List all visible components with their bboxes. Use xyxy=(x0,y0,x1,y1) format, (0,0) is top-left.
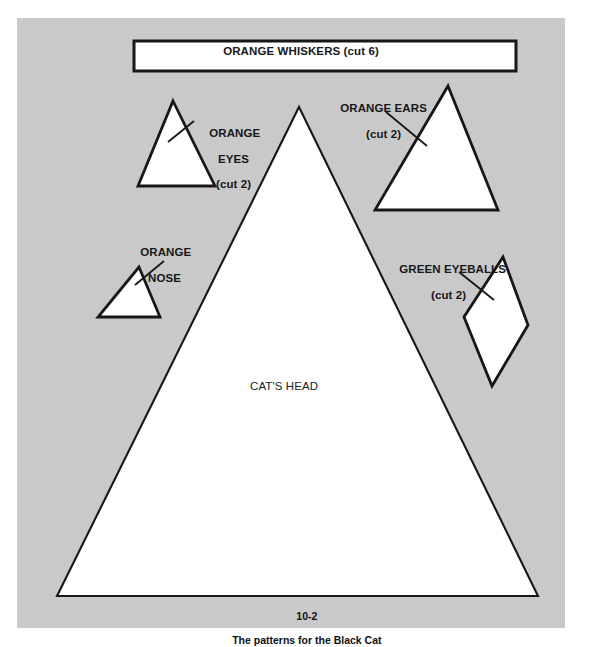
label-cats-head: CAT'S HEAD xyxy=(250,380,318,393)
figure-caption: 10-2 The patterns for the Black Cat xyxy=(0,598,602,647)
label-green-eyeballs-line1: GREEN EYEBALLS xyxy=(399,263,506,275)
label-green-eyeballs-cut: (cut 2) xyxy=(431,289,466,301)
label-orange-ears: ORANGE EARS (cut 2) xyxy=(325,89,429,153)
label-green-eyeballs: GREEN EYEBALLS (cut 2) xyxy=(386,250,498,314)
label-orange-eyes-line2: EYES xyxy=(218,153,249,165)
label-orange-nose: ORANGE NOSE xyxy=(127,233,189,297)
label-orange-eyes-line1: ORANGE xyxy=(209,127,260,139)
label-orange-nose-line1: ORANGE xyxy=(140,246,191,258)
label-orange-eyes-cut: (cut 2) xyxy=(216,178,251,190)
label-orange-whiskers: ORANGE WHISKERS (cut 6) xyxy=(0,45,602,58)
label-orange-nose-line2: NOSE xyxy=(148,272,181,284)
label-orange-ears-line1: ORANGE EARS xyxy=(340,102,427,114)
label-orange-eyes: ORANGE EYES (cut 2) xyxy=(196,114,258,204)
figure-page: ORANGE WHISKERS (cut 6) ORANGE EYES (cut… xyxy=(0,0,602,647)
label-orange-ears-cut: (cut 2) xyxy=(366,128,401,140)
pattern-artwork xyxy=(0,0,602,647)
figure-caption-text: The patterns for the Black Cat xyxy=(232,634,381,646)
figure-caption-number: 10-2 xyxy=(296,610,317,622)
